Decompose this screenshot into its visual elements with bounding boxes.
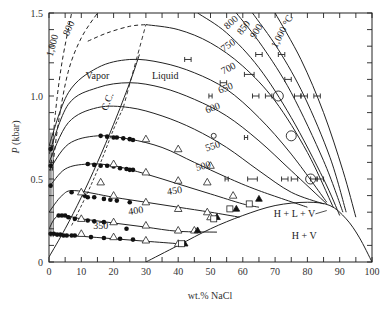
filled-circle-marker (98, 134, 103, 139)
dashed-label-1000-dashed: 1,000 (44, 33, 60, 58)
filled-circle-marker (73, 233, 78, 238)
y-tick-label: 0.5 (31, 174, 44, 185)
filled-circle-marker (89, 235, 94, 240)
isotherm-label-400: 400 (128, 204, 144, 217)
open-triangle-marker (110, 160, 118, 167)
y-tick-label: 1.5 (31, 8, 44, 19)
filled-triangle-marker (256, 195, 263, 201)
open-triangle-marker (142, 135, 150, 142)
error-bar (291, 177, 297, 182)
open-circle-marker (286, 131, 296, 141)
isotherm-label-700: 700 (219, 60, 237, 77)
open-triangle-marker (174, 226, 182, 233)
isotherm-label-500: 500 (194, 158, 211, 173)
filled-circle-marker (115, 135, 120, 140)
open-triangle-marker (97, 178, 105, 185)
open-triangle-marker (174, 177, 182, 184)
region-label: H + V (292, 230, 318, 241)
error-bar (252, 94, 258, 99)
x-tick-label: 10 (76, 266, 86, 277)
filled-circle-marker (73, 217, 78, 222)
x-tick-label: 100 (365, 266, 380, 277)
isotherm-850 (236, 13, 343, 212)
critical-curve-label: C.C. (99, 91, 116, 112)
filled-circle-marker (105, 163, 110, 168)
open-triangle-marker (229, 192, 237, 199)
open-triangle-marker (142, 236, 150, 243)
open-triangle-marker (142, 221, 150, 228)
x-tick-label: 70 (270, 266, 280, 277)
x-tick-label: 90 (335, 266, 345, 277)
open-triangle-marker (174, 205, 182, 212)
y-tick-label: 0 (38, 257, 43, 268)
x-tick-label: 60 (238, 266, 248, 277)
filled-circle-marker (102, 236, 107, 241)
y-axis-label-unit: (kbar) (10, 120, 22, 147)
error-bar (248, 177, 258, 182)
open-triangle-marker (110, 233, 118, 240)
x-tick-label: 0 (47, 266, 52, 277)
isotherm-label-750: 750 (219, 36, 238, 54)
x-axis-label: wt.% NaCl (188, 290, 233, 301)
filled-circle-marker (98, 163, 103, 168)
open-triangle-marker (110, 218, 118, 225)
filled-circle-marker (69, 190, 74, 195)
y-axis-label: P (kbar) (10, 120, 22, 154)
error-bar (285, 77, 291, 82)
isotherm-label-600: 600 (204, 100, 222, 115)
isotherm-label-1000: 1,000 °C (268, 13, 295, 50)
region-label: Vapor (86, 70, 111, 81)
isotherm-500 (49, 164, 259, 207)
isotherm-label-550: 550 (204, 138, 222, 153)
filled-circle-marker (85, 218, 90, 223)
open-square-marker (178, 241, 184, 247)
error-bar (278, 52, 284, 57)
filled-circle-marker (121, 136, 126, 141)
open-triangle-marker (110, 192, 118, 199)
filled-circle-marker (64, 233, 69, 238)
filled-circle-marker (92, 163, 97, 168)
open-circle-marker (211, 133, 216, 138)
error-bar (256, 52, 262, 57)
filled-circle-marker (105, 134, 110, 139)
filled-circle-marker (85, 162, 90, 167)
y-tick-label: 1.0 (31, 91, 44, 102)
open-square-marker (211, 216, 217, 222)
y-axis-label-p: P (10, 147, 21, 154)
error-bar (244, 135, 247, 140)
x-tick-label: 40 (173, 266, 183, 277)
x-tick-label: 50 (206, 266, 216, 277)
filled-circle-marker (85, 195, 90, 200)
x-tick-label: 80 (302, 266, 312, 277)
error-bar (265, 94, 271, 99)
dashed-curve-750-dashed (88, 25, 146, 42)
filled-circle-marker (66, 215, 71, 220)
error-bar (301, 94, 307, 99)
filled-circle-marker (92, 195, 97, 200)
open-triangle-marker (174, 145, 182, 152)
region-label: H + L + V (274, 208, 316, 219)
open-triangle-marker (78, 230, 86, 237)
filled-circle-marker (115, 198, 120, 203)
filled-circle-marker (124, 227, 129, 232)
isotherm-600 (49, 106, 324, 204)
filled-triangle-marker (233, 205, 240, 211)
error-bar (314, 94, 320, 99)
region-label: Liquid (152, 70, 179, 81)
filled-circle-marker (131, 168, 136, 173)
isotherm-label-350: 350 (93, 220, 108, 231)
error-bar (185, 57, 191, 62)
filled-circle-marker (127, 200, 132, 205)
open-square-marker (246, 201, 252, 207)
hlv-pointer-line (315, 211, 326, 214)
x-tick-label: 30 (141, 266, 151, 277)
open-square-marker (227, 206, 233, 212)
dashed-label-800-dashed: 800 (60, 19, 76, 37)
critical-curve-upper-dashed (123, 25, 146, 108)
isotherm-label-450: 450 (166, 184, 182, 197)
phase-diagram-chart: wt.% NaCl P (kbar) 010203040506070809010… (0, 0, 389, 309)
filled-circle-marker (131, 138, 136, 143)
filled-circle-marker (118, 236, 123, 241)
error-bar (294, 94, 300, 99)
isotherm-650 (49, 83, 327, 204)
